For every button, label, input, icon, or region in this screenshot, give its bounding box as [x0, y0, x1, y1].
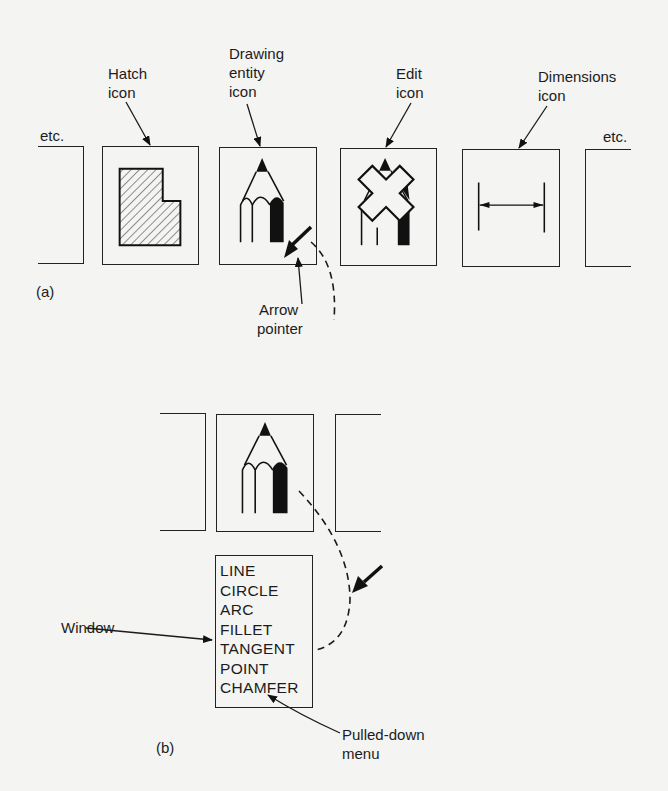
hatch-icon-box[interactable]	[102, 146, 199, 265]
menu-item-arc[interactable]: ARC	[220, 600, 312, 620]
edit-cross-pencil-icon	[341, 149, 436, 265]
edit-icon-box[interactable]	[340, 148, 437, 266]
hatch-icon	[103, 147, 198, 264]
label-line: icon	[538, 86, 616, 105]
label-line: Drawing	[229, 44, 284, 63]
dimensions-icon-label: Dimensions icon	[538, 67, 616, 105]
menu-item-tangent[interactable]: TANGENT	[220, 639, 312, 659]
arrow-pointer-label: Arrow pointer	[257, 300, 303, 338]
window-label: Window	[61, 618, 114, 637]
annotation-arrows	[0, 0, 668, 791]
menu-item-line[interactable]: LINE	[220, 561, 312, 581]
arrow-pointer-cursor-icon-b	[352, 566, 382, 593]
pulled-down-menu: LINE CIRCLE ARC FILLET TANGENT POINT CHA…	[215, 555, 313, 708]
label-line: entity	[229, 63, 284, 82]
label-line: menu	[342, 744, 425, 763]
partial-icon-box-left[interactable]	[38, 146, 84, 264]
dimension-arrows-icon	[463, 150, 559, 266]
pencil-icon	[217, 415, 313, 531]
label-line: icon	[108, 83, 147, 102]
dimensions-icon-box[interactable]	[462, 149, 560, 267]
menu-item-circle[interactable]: CIRCLE	[220, 581, 312, 601]
partial-icon-box-left-b[interactable]	[160, 413, 206, 531]
drawing-entity-icon-box[interactable]	[219, 147, 317, 265]
hatch-icon-label: Hatch icon	[108, 64, 147, 102]
label-line: Edit	[396, 64, 424, 83]
label-line: Hatch	[108, 64, 147, 83]
label-line: Dimensions	[538, 67, 616, 86]
partial-icon-box-right[interactable]	[585, 149, 631, 267]
label-line: icon	[229, 82, 284, 101]
edit-icon-label: Edit icon	[396, 64, 424, 102]
menu-item-fillet[interactable]: FILLET	[220, 620, 312, 640]
etc-left-label: etc.	[40, 126, 64, 145]
etc-right-label: etc.	[603, 127, 627, 146]
label-line: Pulled-down	[342, 725, 425, 744]
label-line: Arrow	[257, 300, 303, 319]
label-line: pointer	[257, 319, 303, 338]
label-line: icon	[396, 83, 424, 102]
partial-icon-box-right-b[interactable]	[335, 414, 381, 532]
menu-item-chamfer[interactable]: CHAMFER	[220, 678, 312, 698]
caption-part-b: (b)	[156, 739, 174, 756]
caption-part-a: (a)	[36, 283, 54, 300]
drawing-entity-icon-label: Drawing entity icon	[229, 44, 284, 101]
drawing-entity-icon-box-selected[interactable]	[216, 414, 314, 532]
pencil-icon	[220, 148, 316, 264]
pulled-down-menu-label: Pulled-down menu	[342, 725, 425, 763]
menu-item-point[interactable]: POINT	[220, 659, 312, 679]
